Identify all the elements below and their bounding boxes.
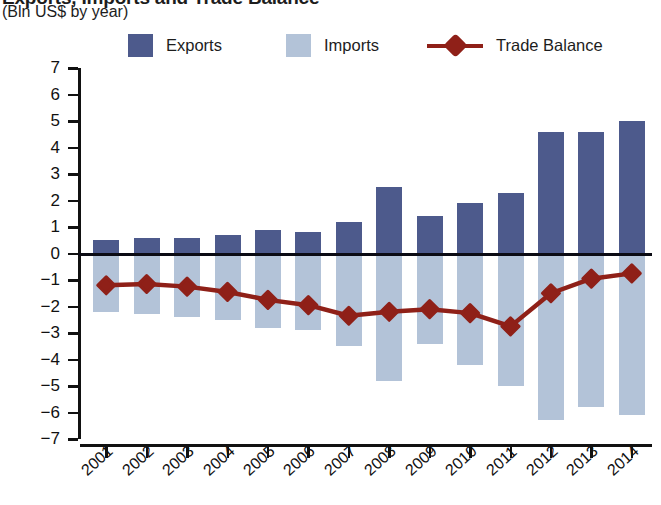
y-axis-tick	[68, 147, 78, 150]
x-axis-label: 2012	[523, 442, 561, 479]
bar-import	[93, 254, 119, 312]
y-axis-tick	[68, 306, 78, 309]
y-axis-label: 4	[26, 138, 60, 158]
bar-import	[255, 254, 281, 328]
bar-import	[376, 254, 402, 381]
bar-import	[134, 254, 160, 315]
bar-export	[538, 132, 564, 254]
bar-export	[134, 238, 160, 254]
y-axis-label: 3	[26, 164, 60, 184]
bar-export	[255, 230, 281, 254]
bar-export	[498, 193, 524, 254]
y-axis-tick	[68, 200, 78, 203]
x-axis-label: 2013	[563, 442, 601, 479]
y-axis-label: −6	[26, 403, 60, 423]
bar-import	[174, 254, 200, 318]
x-axis-label: 2009	[402, 442, 440, 479]
bar-export	[417, 216, 443, 253]
y-axis-tick	[68, 332, 78, 335]
y-axis-label: −3	[26, 323, 60, 343]
y-axis-label: 1	[26, 217, 60, 237]
x-axis-label: 2005	[240, 442, 278, 479]
bar-import	[215, 254, 241, 320]
bar-export	[93, 240, 119, 253]
bar-export	[457, 203, 483, 253]
trade-balance-chart: Exports, Imports and Trade Balance (Bln …	[0, 0, 661, 505]
y-axis-tick	[68, 279, 78, 282]
y-axis-label: −7	[26, 429, 60, 449]
y-axis-label: 6	[26, 85, 60, 105]
x-axis-label: 2001	[78, 442, 116, 479]
x-axis-label: 2006	[280, 442, 318, 479]
y-axis-label: −4	[26, 350, 60, 370]
x-axis-line	[80, 444, 652, 447]
y-axis-tick	[68, 438, 78, 441]
y-axis-tick	[68, 120, 78, 123]
bar-export	[295, 232, 321, 253]
y-axis-label: −5	[26, 376, 60, 396]
bar-export	[619, 121, 645, 254]
y-axis-tick	[68, 67, 78, 70]
bar-export	[578, 132, 604, 254]
bar-export	[174, 238, 200, 254]
bar-import	[498, 254, 524, 387]
bar-import	[457, 254, 483, 365]
y-axis-tick	[68, 173, 78, 176]
bar-import	[336, 254, 362, 347]
y-axis-label: −2	[26, 297, 60, 317]
zero-baseline	[78, 253, 652, 256]
y-axis-label: −1	[26, 270, 60, 290]
bar-export	[215, 235, 241, 254]
y-axis-tick	[68, 359, 78, 362]
bar-import	[578, 254, 604, 408]
bar-export	[376, 187, 402, 253]
bar-export	[336, 222, 362, 254]
y-axis-tick	[68, 412, 78, 415]
x-axis-label: 2007	[321, 442, 359, 479]
bar-import	[538, 254, 564, 421]
bar-import	[417, 254, 443, 344]
y-axis-tick	[68, 253, 78, 256]
y-axis-label: 2	[26, 191, 60, 211]
y-axis-label: 0	[26, 244, 60, 264]
bar-import	[295, 254, 321, 331]
x-axis-label: 2004	[200, 442, 238, 479]
x-axis-label: 2010	[442, 442, 480, 479]
y-axis-tick	[68, 226, 78, 229]
y-axis-label: 5	[26, 111, 60, 131]
x-axis-label: 2011	[483, 443, 521, 479]
x-axis-label: 2003	[159, 442, 197, 479]
x-axis-label: 2002	[119, 442, 157, 479]
plot-area: 76543210−1−2−3−4−5−6−7200120022003200420…	[0, 0, 661, 505]
bar-import	[619, 254, 645, 416]
x-axis-label: 2014	[604, 442, 642, 479]
y-axis-tick	[68, 94, 78, 97]
x-axis-label: 2008	[361, 442, 399, 479]
y-axis-label: 7	[26, 58, 60, 78]
y-axis-tick	[68, 385, 78, 388]
